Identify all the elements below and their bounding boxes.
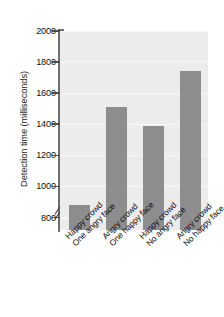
x-axis-tick-labels: Happy crowdOne angry faceAngry crowdOne … [0,0,224,317]
bar-chart-figure: Detection time (milliseconds) 8001000120… [0,0,224,317]
